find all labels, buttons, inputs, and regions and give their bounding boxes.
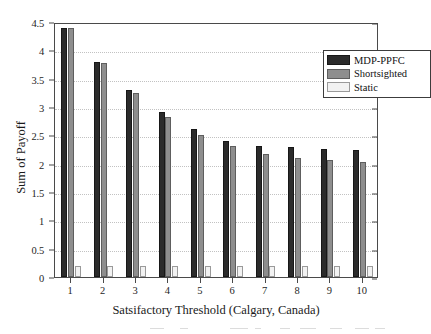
bar-mdp-ppfc-6	[223, 141, 229, 277]
y-tick-label: 1.5	[31, 188, 44, 199]
legend-swatch-static	[327, 82, 350, 92]
y-tick-label: 3	[39, 103, 44, 114]
bar-static-8	[302, 266, 308, 277]
bar-static-3	[140, 266, 146, 277]
plot-area: MDP-PPFC Shortsighted Static	[54, 23, 378, 278]
scan-artifact-dash	[255, 328, 261, 329]
scan-artifact-dash	[330, 328, 342, 329]
bar-static-9	[334, 266, 340, 277]
bar-static-1	[75, 266, 81, 277]
y-tick-label: 0	[39, 273, 44, 284]
scan-artifact-dash	[375, 328, 385, 329]
scan-artifact-dash	[180, 328, 188, 329]
x-tick-label: 9	[327, 285, 332, 296]
legend-item-shortsighted: Shortsighted	[327, 68, 426, 81]
y-tick-mark-right	[372, 194, 377, 195]
scan-artifact-dash	[300, 328, 316, 329]
x-tick-mark	[70, 278, 71, 283]
scan-artifact-dash	[280, 328, 290, 329]
chart-legend: MDP-PPFC Shortsighted Static	[323, 50, 431, 98]
bar-static-2	[107, 266, 113, 277]
x-tick-mark	[265, 278, 266, 283]
bar-shortsighted-6	[230, 146, 236, 277]
bar-shortsighted-5	[198, 135, 204, 277]
bar-static-5	[205, 266, 211, 277]
x-tick-label: 1	[68, 285, 73, 296]
bar-mdp-ppfc-1	[61, 28, 67, 277]
legend-swatch-mdp-ppfc	[327, 55, 350, 65]
bar-shortsighted-10	[360, 162, 366, 277]
y-tick-label: 0.5	[31, 244, 44, 255]
bar-shortsighted-3	[133, 93, 139, 277]
bar-mdp-ppfc-2	[94, 62, 100, 277]
legend-label-shortsighted: Shortsighted	[354, 68, 407, 79]
legend-swatch-shortsighted	[327, 69, 350, 79]
legend-label-static: Static	[354, 82, 378, 93]
scan-artifact-dash	[150, 328, 164, 329]
x-tick-label: 7	[262, 285, 267, 296]
x-tick-mark	[103, 278, 104, 283]
bar-shortsighted-9	[327, 160, 333, 277]
x-tick-label: 8	[294, 285, 299, 296]
y-tick-mark-right	[372, 222, 377, 223]
x-tick-label: 3	[132, 285, 137, 296]
y-axis-ticks: 00.511.522.533.544.5	[0, 23, 54, 278]
bar-static-6	[237, 266, 243, 277]
bar-mdp-ppfc-10	[353, 150, 359, 278]
legend-label-mdp-ppfc: MDP-PPFC	[354, 55, 405, 66]
x-tick-mark	[329, 278, 330, 283]
bar-mdp-ppfc-8	[288, 147, 294, 277]
y-tick-label: 4.5	[31, 18, 44, 29]
y-tick-mark-right	[372, 109, 377, 110]
bar-static-10	[367, 266, 373, 277]
bar-shortsighted-7	[263, 154, 269, 277]
y-tick-label: 1	[39, 216, 44, 227]
x-tick-mark	[135, 278, 136, 283]
x-tick-mark	[362, 278, 363, 283]
legend-item-static: Static	[327, 81, 426, 94]
x-tick-label: 6	[230, 285, 235, 296]
bar-shortsighted-4	[165, 117, 171, 277]
x-tick-mark	[232, 278, 233, 283]
scan-artifact-dash	[230, 328, 248, 329]
x-tick-label: 10	[357, 285, 368, 296]
bar-shortsighted-2	[101, 63, 107, 277]
bar-mdp-ppfc-5	[191, 129, 197, 277]
bar-mdp-ppfc-9	[321, 149, 327, 277]
y-tick-mark-right	[372, 165, 377, 166]
x-axis-label: Satsifactory Threshold (Calgary, Canada)	[54, 303, 378, 318]
y-tick-label: 2.5	[31, 131, 44, 142]
bar-shortsighted-8	[295, 158, 301, 277]
x-tick-mark	[167, 278, 168, 283]
bar-mdp-ppfc-4	[159, 112, 165, 277]
y-tick-label: 3.5	[31, 74, 44, 85]
legend-item-mdp-ppfc: MDP-PPFC	[327, 54, 426, 67]
x-tick-label: 5	[197, 285, 202, 296]
bar-mdp-ppfc-3	[126, 90, 132, 277]
y-tick-mark-right	[372, 250, 377, 251]
bar-mdp-ppfc-7	[256, 146, 262, 277]
x-tick-mark	[200, 278, 201, 283]
bar-static-7	[269, 266, 275, 277]
y-tick-mark-right	[372, 137, 377, 138]
bar-static-4	[172, 266, 178, 277]
y-tick-label: 4	[39, 46, 44, 57]
scan-artifact-dash	[355, 328, 369, 329]
x-tick-mark	[297, 278, 298, 283]
x-tick-label: 4	[165, 285, 170, 296]
y-tick-label: 2	[39, 159, 44, 170]
x-tick-label: 2	[100, 285, 105, 296]
scan-artifact	[0, 326, 394, 331]
bar-shortsighted-1	[68, 28, 74, 277]
y-tick-mark-right	[372, 24, 377, 25]
